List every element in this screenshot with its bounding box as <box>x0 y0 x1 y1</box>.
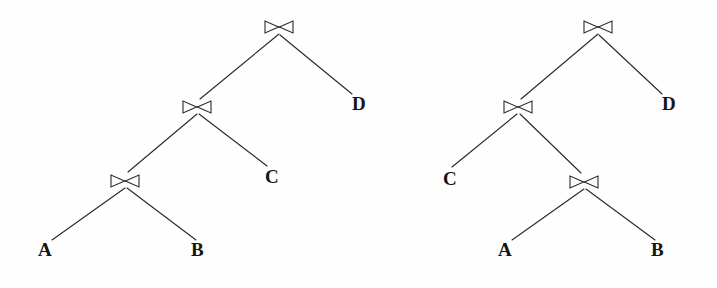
edge-bottom-to-leaf-b <box>586 189 655 240</box>
edge-root-to-mid <box>521 34 598 99</box>
edge-bottom-to-leaf-a <box>52 188 125 240</box>
bowtie-join-icon <box>504 101 532 113</box>
edge-bottom-to-leaf-a <box>512 189 584 240</box>
left-tree-edges <box>52 34 352 240</box>
right-tree-edges <box>452 34 662 240</box>
right-tree-leaf-d-label: D <box>662 94 676 113</box>
edge-bottom-to-leaf-b <box>127 188 196 240</box>
right-tree-operators <box>504 21 612 188</box>
figure-canvas: A B C D C A B D <box>0 0 717 288</box>
left-tree-leaf-c-label: C <box>265 167 279 186</box>
bowtie-join-icon <box>570 176 598 188</box>
bowtie-join-icon <box>183 101 211 113</box>
edge-root-to-mid <box>200 34 279 99</box>
join-trees-diagram <box>0 0 717 288</box>
bowtie-join-icon <box>111 175 139 187</box>
right-tree-leaf-b-label: B <box>651 240 664 259</box>
left-tree-leaf-d-label: D <box>352 94 366 113</box>
edge-root-to-leaf-d <box>280 35 352 94</box>
edge-mid-to-bottom <box>520 114 581 173</box>
bowtie-join-icon <box>265 21 293 33</box>
right-tree-leaf-a-label: A <box>498 240 512 259</box>
edge-mid-to-leaf-c <box>199 114 267 166</box>
bowtie-join-icon <box>584 21 612 33</box>
left-tree-leaf-b-label: B <box>191 240 204 259</box>
right-tree-leaf-c-label: C <box>443 169 457 188</box>
left-tree-operators <box>111 21 293 187</box>
left-tree-leaf-a-label: A <box>38 240 52 259</box>
edge-root-to-leaf-d <box>599 35 662 94</box>
edge-mid-to-leaf-c <box>452 114 517 167</box>
edge-mid-to-bottom <box>128 114 197 172</box>
